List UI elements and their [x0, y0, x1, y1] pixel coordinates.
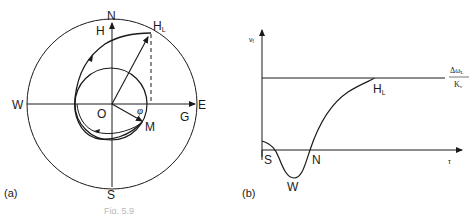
panel-a-tag: (a): [4, 187, 17, 199]
label-h: H: [96, 24, 105, 38]
label-phi: φ: [137, 104, 143, 116]
asymptote-numerator: ΔωL: [450, 66, 463, 75]
label-hl: HL: [153, 19, 166, 33]
trajectory-spiral: [75, 33, 151, 139]
point-s: S: [264, 153, 272, 167]
y-axis-label: vf: [249, 36, 255, 44]
figure-caption-partial: Fig. 5.9: [104, 206, 134, 214]
label-g: G: [180, 110, 189, 124]
x-axis-label: τ: [448, 158, 451, 165]
label-m: M: [145, 120, 155, 134]
vector-o-hl: [112, 37, 148, 104]
point-n: N: [312, 153, 321, 167]
label-south: S: [107, 188, 115, 202]
point-w: W: [287, 180, 299, 194]
label-origin: O: [97, 107, 106, 121]
trajectory-inner-arc: [77, 104, 140, 134]
panel-b-tag: (b): [242, 187, 255, 199]
point-hl: HL: [373, 82, 386, 96]
figure-canvas: N S W E O H HL G M φ (a) vf τ ΔωL Kv S W…: [0, 0, 476, 214]
label-north: N: [107, 9, 116, 23]
panel-a: N S W E O H HL G M φ (a): [4, 9, 206, 202]
panel-b: vf τ ΔωL Kv S W N HL (b): [242, 30, 469, 199]
arrow-on-spiral-up: [88, 55, 93, 62]
label-west: W: [12, 98, 24, 112]
label-east: E: [198, 98, 206, 112]
asymptote-denominator: Kv: [454, 80, 463, 89]
